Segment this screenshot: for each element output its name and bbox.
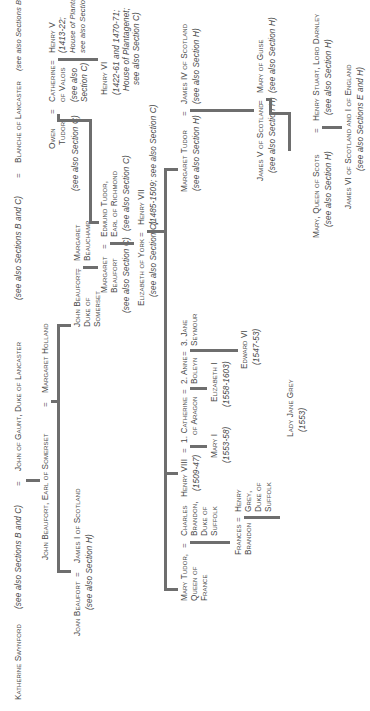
henry-vi-dates: (1422-61 and 1470-71; (112, 10, 122, 95)
jane-seymour-line2: Seymour (190, 314, 200, 347)
james-i-note: (see also Section H) (85, 534, 95, 610)
catherine-of-aragon-line2: of Aragon (190, 396, 200, 435)
sibling-bracket (57, 325, 60, 573)
john-of-gaunt: John of Gaunt, Duke of Lancaster (14, 342, 24, 471)
henry-v-dates: (1413-22; (58, 17, 68, 53)
john-beaufort-duke-line3: Somerset (93, 291, 103, 327)
elizabeth-of-york: Elizabeth of York (137, 239, 147, 306)
charles-brandon-line4: Suffolk (210, 506, 220, 536)
descent-line (57, 119, 92, 122)
descent-line (89, 221, 99, 224)
charles-brandon-line3: Duke of (200, 506, 210, 536)
henry-vii-note: (1485-1509; see also Section C) (149, 104, 159, 225)
margaret-holland: Margaret Holland (41, 323, 51, 393)
descent-line (190, 445, 207, 448)
owen-tudor-note: (see also Section C) (71, 115, 81, 191)
frances-brandon-line2: Brandon (244, 523, 254, 555)
descent-bracket (89, 119, 92, 224)
henry-vii: Henry VII (137, 189, 147, 225)
descent-link (288, 112, 291, 151)
charles-brandon: Charles (180, 505, 190, 536)
margaret-beaufort-line2: Beaufort (110, 258, 120, 293)
descent-line (190, 109, 254, 112)
henry-grey: Henry (234, 489, 244, 512)
anne-boleyn: 2. Anne (180, 357, 190, 384)
james-vi-and-i: James VI of Scotland and I of England (344, 64, 354, 209)
marriage-sign: = (137, 232, 147, 237)
descent-line (164, 168, 178, 171)
mary-queen-of-scots: Mary, Queen of Scots (312, 154, 322, 238)
henry-vi-note: see also Section C) (132, 12, 142, 85)
marriage-sign: = (234, 517, 244, 522)
margaret-tudor: Margaret Tudor (180, 130, 190, 192)
henry-vi-house: House of Plantagenet; (122, 8, 132, 91)
lady-jane-grey-dates: (1553) (298, 408, 308, 432)
descent-line (190, 349, 238, 352)
marriage-sign: = (41, 402, 51, 407)
edmund-tudor-line2: Earl of Richmond (110, 171, 120, 237)
jane-seymour: 3. Jane (180, 320, 190, 346)
edmund-tudor: Edmund Tudor, (100, 181, 110, 237)
mary-tudor-line2: Queen of (190, 567, 200, 601)
joan-beaufort: Joan Beaufort (73, 581, 83, 636)
catherine-of-aragon: 1. Catherine (180, 397, 190, 443)
marriage-sign: = (180, 111, 190, 116)
margaret-beauchamp-line2: Beauchamp (83, 221, 93, 261)
edward-vi: Edward VI (240, 330, 250, 369)
edward-vi-dates: (1547-53) (252, 329, 262, 365)
james-vi-note: (see also Sections E and H) (356, 67, 366, 171)
marriage-sign: = (256, 100, 266, 105)
elizabeth-i: Elizabeth I (210, 362, 220, 402)
descent-line (26, 479, 40, 482)
henry-vi: Henry VI (100, 62, 110, 95)
blanche-of-lancaster: Blanche of Lancaster (14, 81, 24, 163)
mary-i: Mary I (210, 434, 220, 458)
anne-boleyn-line2: Boleyn (190, 358, 200, 384)
elizabeth-i-dates: (1558-1603) (222, 361, 232, 407)
mary-tudor-line3: France (200, 574, 210, 601)
mary-i-dates: (1553-58) (222, 427, 232, 463)
margaret-beaufort-note: (see also Section C) (122, 237, 132, 313)
james-v-of-scotland: James V of Scotland (256, 103, 266, 181)
catherine-of-valois-line2: of Valois (58, 67, 68, 102)
descent-line (322, 126, 342, 129)
marriage-sign: = (100, 244, 110, 249)
marriage-sign: = (14, 173, 24, 178)
marriage-sign: = (180, 543, 190, 548)
margaret-tudor-note: (see also Section H) (192, 115, 202, 191)
marriage-sign: = (73, 572, 83, 577)
katherine-swynford: Katherine Swynford (14, 624, 24, 700)
henry-v-note: see also Section C) (78, 0, 88, 53)
descent-line (164, 588, 178, 591)
katherine-note: (see also Sections B and C) (14, 505, 24, 609)
james-i-of-scotland: James I of Scotland (73, 488, 83, 563)
henry-viii-dates: (1509-47) (192, 455, 202, 491)
mary-queen-of-scots-note: (see also Section H) (324, 151, 334, 227)
margaret-beauchamp: Margaret (73, 224, 83, 261)
catherine-note-line2: Section C) (80, 63, 90, 102)
henry-stuart-lord-darnley: Henry Stuart, Lord Darnley (312, 14, 322, 121)
marriage-sign: = (14, 481, 24, 486)
john-beaufort-earl-of-somerset: John Beaufort, Earl of Somerset (41, 433, 51, 560)
john-of-gaunt-note: (see also Sections B and C) (14, 196, 24, 300)
marriage-sign: = (180, 351, 190, 356)
charles-brandon-line2: Brandon, (190, 501, 200, 536)
henry-grey-line3: Duke of (254, 482, 264, 512)
blanche-note: (see also Sections B and C) (14, 0, 24, 71)
catherine-note-line1: (see also (70, 68, 80, 102)
mary-of-guise-note: (see also Section H) (268, 17, 278, 93)
family-tree-diagram: Katherine Swynford (see also Sections B … (0, 0, 370, 711)
john-beaufort-duke-of-somerset: John Beaufort, (73, 270, 83, 327)
marriage-sign: = (48, 60, 58, 65)
lady-jane-grey: Lady Jane Grey (286, 379, 296, 437)
margaret-beaufort: Margaret (100, 256, 110, 293)
descent-line (83, 266, 98, 269)
henry-grey-line4: Suffolk (264, 482, 274, 512)
frances-brandon: Frances (234, 524, 244, 555)
owen-tudor-line2: Tudor (58, 122, 68, 145)
marriage-sign: = (312, 128, 322, 133)
descent-line (58, 58, 98, 61)
james-iv-of-scotland: James IV of Scotland (180, 24, 190, 104)
descent-line (110, 242, 134, 245)
descent-line (57, 570, 71, 573)
